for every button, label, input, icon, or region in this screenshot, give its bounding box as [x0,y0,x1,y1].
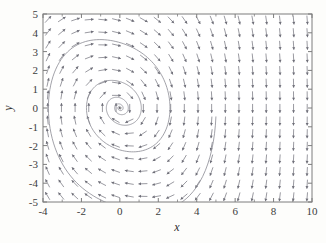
y-tick-label: -2 [29,140,38,152]
x-axis-title: x [173,220,180,234]
x-tick-label: 2 [156,205,162,217]
y-tick-label: -1 [29,121,38,133]
y-tick-label: -4 [29,177,39,189]
phase-portrait-plot: -4-20246810 -5-4-3-2-1012345 x y [0,0,326,243]
x-tick-label: 8 [271,205,277,217]
y-axis-title: y [1,105,15,112]
y-tick-label: -3 [29,158,39,170]
y-tick-label: 5 [33,8,39,20]
x-tick-label: 0 [117,205,123,217]
y-tick-label: 1 [33,83,39,95]
x-tick-label: 6 [232,205,238,217]
x-tick-label: 10 [307,205,319,217]
y-tick-label: 4 [33,27,39,39]
x-tick-label: -4 [38,205,48,217]
y-tick-label: -5 [29,196,39,208]
x-tick-label: -2 [77,205,86,217]
x-tick-label: 4 [194,205,200,217]
y-tick-label: 0 [33,102,39,114]
y-tick-label: 2 [33,64,39,76]
y-tick-label: 3 [33,46,39,58]
figure-canvas: -4-20246810 -5-4-3-2-1012345 x y [0,0,326,243]
